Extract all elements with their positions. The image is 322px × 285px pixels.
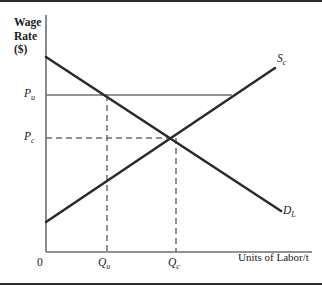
competitive-wage-subscript: c <box>31 136 35 145</box>
competitive-quantity-subscript: c <box>176 262 180 271</box>
competitive-wage-label: Pc <box>24 130 35 146</box>
supply-curve-label: Sc <box>277 52 286 68</box>
supply-curve <box>46 68 275 222</box>
x-axis-title: Units of Labor/t <box>238 251 309 264</box>
demand-curve <box>46 57 281 211</box>
union-wage-subscript: u <box>31 93 35 102</box>
chart-canvas <box>0 0 322 285</box>
y-axis-title-line-1: Wage <box>14 16 41 30</box>
y-axis-title: Wage Rate ($) <box>14 16 41 57</box>
origin-label: 0 <box>37 256 43 270</box>
y-axis-title-line-2: Rate <box>14 30 41 44</box>
supply-curve-subscript: c <box>283 58 287 67</box>
demand-curve-label: DL <box>283 204 296 220</box>
competitive-quantity-label: Qc <box>168 256 180 272</box>
union-quantity-label: Qu <box>98 256 110 272</box>
union-quantity-subscript: u <box>106 262 110 271</box>
y-axis-title-line-3: ($) <box>14 43 41 57</box>
competitive-wage-letter: P <box>24 130 31 142</box>
union-wage-letter: P <box>24 87 31 99</box>
demand-curve-subscript: L <box>291 210 295 219</box>
economics-figure: Wage Rate ($) Units of Labor/t 0 Pu Pc Q… <box>0 0 322 285</box>
union-wage-label: Pu <box>24 87 35 103</box>
